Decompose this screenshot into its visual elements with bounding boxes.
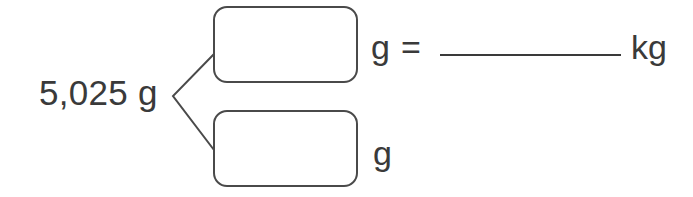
answer-blank-line[interactable] [440,54,621,56]
equals-sign: = [401,27,421,67]
top-part-box[interactable] [213,6,358,83]
answer-unit: kg [631,27,667,67]
top-part-unit: g [371,27,390,67]
bottom-part-unit: g [373,133,392,173]
total-mass-label: 5,025 g [39,73,158,113]
bottom-part-box[interactable] [213,110,358,187]
